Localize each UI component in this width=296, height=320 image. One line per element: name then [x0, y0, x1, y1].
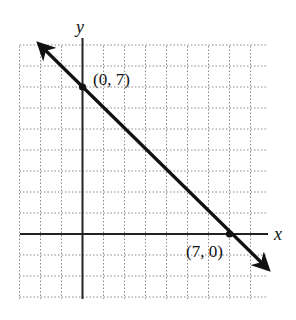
point-0-7-label: (0, 7): [93, 70, 130, 89]
point-0-7: [79, 83, 86, 90]
grid-lines: [20, 45, 268, 299]
point-7-0-label: (7, 0): [186, 242, 223, 261]
coordinate-graph: y x (0, 7) (7, 0): [0, 0, 296, 320]
line-x-plus-y-equals-7: [39, 44, 268, 269]
x-axis-label: x: [273, 224, 282, 244]
y-axis-label: y: [74, 17, 84, 37]
point-7-0: [226, 230, 233, 237]
